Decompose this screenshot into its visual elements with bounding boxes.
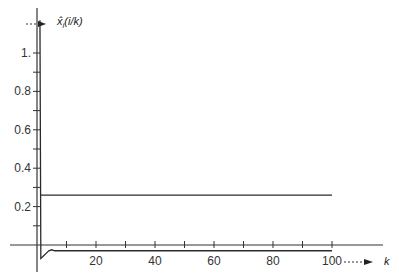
- y-tick-label: 1.: [21, 46, 31, 60]
- axes: 0.20.40.60.81.20406080100: [10, 8, 383, 272]
- y-axis-label: x̂i(i/k): [56, 15, 83, 30]
- y-tick-label: 0.6: [14, 123, 31, 137]
- x-tick-label: 20: [89, 254, 103, 268]
- y-tick-label: 0.2: [14, 200, 31, 214]
- chart: 0.20.40.60.81.20406080100 x̂i(i/k) k: [0, 0, 399, 277]
- x-tick-label: 80: [266, 254, 280, 268]
- y-tick-label: 0.8: [14, 84, 31, 98]
- x-axis-label: k: [384, 255, 390, 267]
- y-tick-label: 0.4: [14, 161, 31, 175]
- series-lines: [40, 20, 332, 258]
- estimate-curve: [40, 20, 332, 258]
- x-tick-label: 60: [207, 254, 221, 268]
- x-tick-label: 40: [148, 254, 162, 268]
- x-tick-label: 100: [322, 254, 342, 268]
- x-arrow-icon: [364, 259, 373, 265]
- axis-labels: x̂i(i/k) k: [56, 15, 390, 267]
- y-arrow-icon: [38, 21, 46, 27]
